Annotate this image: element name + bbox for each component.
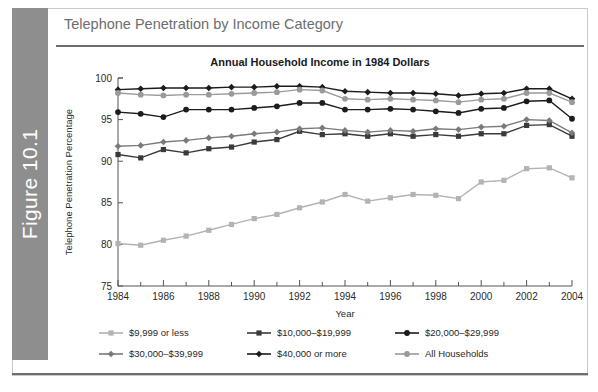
legend-marker-icon	[246, 327, 272, 339]
svg-text:1988: 1988	[198, 291, 221, 302]
figure-header-title: Telephone Penetration by Income Category	[64, 16, 343, 32]
legend-label: All Households	[425, 348, 488, 359]
legend-marker-icon	[98, 327, 124, 339]
legend-item[interactable]: $40,000 or more	[246, 343, 394, 364]
figure-number-tab: Figure 10.1	[12, 8, 48, 360]
legend-item[interactable]: $20,000–$29,999	[394, 322, 542, 343]
chart-series	[115, 165, 574, 248]
svg-text:1986: 1986	[152, 291, 175, 302]
legend-item[interactable]: $9,999 or less	[98, 322, 246, 343]
legend-row: $30,000–$39,999$40,000 or moreAll Househ…	[56, 343, 584, 364]
svg-text:1998: 1998	[425, 291, 448, 302]
svg-text:75: 75	[101, 281, 113, 292]
svg-text:1990: 1990	[243, 291, 266, 302]
chart-container: Annual Household Income in 1984 Dollars …	[56, 50, 584, 368]
legend-label: $20,000–$29,999	[425, 327, 499, 338]
footer-divider	[12, 373, 588, 375]
legend-label: $9,999 or less	[129, 327, 189, 338]
legend-label: $30,000–$39,999	[129, 348, 203, 359]
legend-marker-icon	[394, 327, 420, 339]
svg-text:95: 95	[101, 114, 113, 125]
legend-marker-icon	[394, 348, 420, 360]
svg-text:2000: 2000	[470, 291, 493, 302]
svg-text:100: 100	[95, 73, 112, 84]
svg-text:1992: 1992	[288, 291, 311, 302]
legend-item[interactable]: All Households	[394, 343, 542, 364]
legend-label: $40,000 or more	[277, 348, 347, 359]
legend-row: $9,999 or less$10,000–$19,999$20,000–$29…	[56, 322, 584, 343]
svg-text:80: 80	[101, 239, 113, 250]
svg-text:1984: 1984	[107, 291, 130, 302]
legend-item[interactable]: $10,000–$19,999	[246, 322, 394, 343]
legend-item[interactable]: $30,000–$39,999	[98, 343, 246, 364]
legend-label: $10,000–$19,999	[277, 327, 351, 338]
svg-text:1996: 1996	[379, 291, 402, 302]
figure-root: Figure 10.1 Telephone Penetration by Inc…	[0, 0, 598, 392]
legend-marker-icon	[246, 348, 272, 360]
figure-header: Telephone Penetration by Income Category	[56, 12, 584, 46]
svg-text:2002: 2002	[515, 291, 538, 302]
svg-text:2004: 2004	[561, 291, 584, 302]
svg-text:90: 90	[101, 156, 113, 167]
legend-marker-icon	[98, 348, 124, 360]
svg-text:Year: Year	[335, 308, 354, 319]
svg-text:1994: 1994	[334, 291, 357, 302]
chart-legend: $9,999 or less$10,000–$19,999$20,000–$29…	[56, 322, 584, 368]
header-divider	[56, 45, 584, 47]
svg-text:85: 85	[101, 197, 113, 208]
svg-text:Telephone Penetration Percenta: Telephone Penetration Percentage	[63, 109, 74, 255]
figure-number-label: Figure 10.1	[12, 8, 48, 360]
line-chart-plot: 7580859095100198419861988199019921994199…	[56, 50, 584, 325]
